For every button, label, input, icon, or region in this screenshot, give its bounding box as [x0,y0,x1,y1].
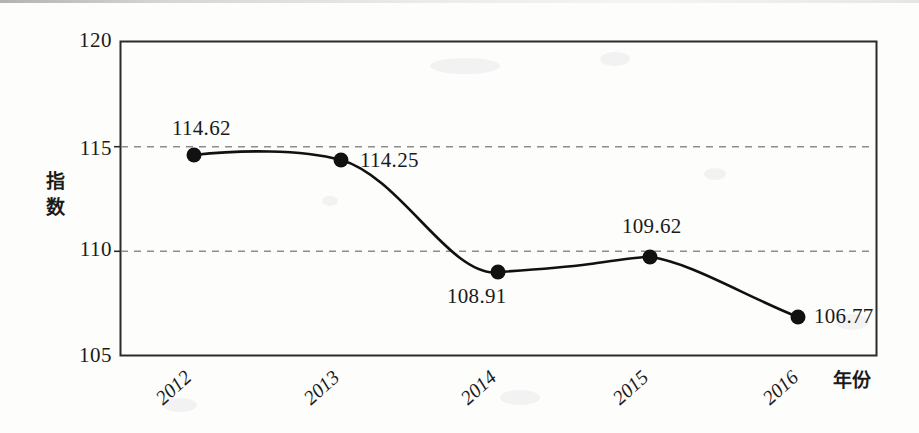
y-axis-tick-label: 105 [52,345,112,366]
y-axis-tick-label: 115 [52,138,112,159]
data-point-2012 [187,148,202,163]
data-point-2016 [791,310,806,325]
data-label-2016: 106.77 [814,306,874,327]
chart-canvas [0,0,919,433]
chart-page: 120 115 110 105 指 数 2012 2013 2014 2015 … [0,0,919,433]
x-axis-title: 年份 [833,371,871,390]
y-axis-tick-label: 110 [52,239,112,260]
data-label-2015: 109.62 [622,216,682,237]
data-point-2013 [334,153,349,168]
plot-frame [121,42,877,356]
data-label-2014: 108.91 [447,286,507,307]
data-label-2012: 114.62 [172,118,231,139]
data-point-2015 [643,250,658,265]
y-axis-tick-label: 120 [52,30,112,51]
data-point-2014 [491,265,506,280]
y-axis-title: 指 数 [42,168,68,220]
y-axis-title-char-1: 指 [42,168,68,194]
data-label-2013: 114.25 [360,150,419,171]
y-axis-title-char-2: 数 [42,194,68,220]
